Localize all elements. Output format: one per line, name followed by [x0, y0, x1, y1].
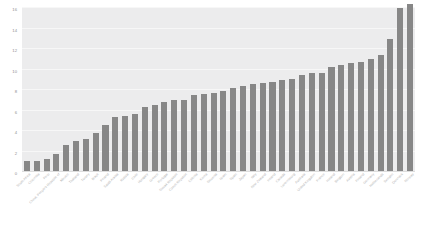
- bar: [102, 125, 108, 172]
- x-tick-label: Russia: [120, 173, 130, 183]
- y-axis: 0246810121416: [0, 8, 20, 172]
- bar: [358, 62, 364, 172]
- bar: [328, 67, 334, 172]
- x-tick-label: Estonia: [188, 173, 199, 184]
- bar: [53, 154, 59, 172]
- bar: [142, 107, 148, 172]
- plot-area: [22, 8, 415, 172]
- x-tick-label: Israel: [220, 173, 228, 181]
- bar: [161, 102, 167, 172]
- bar: [378, 55, 384, 172]
- x-axis: South AfricaColombiaPeruChina, People's …: [22, 173, 415, 237]
- x-tick-label: Turkey: [81, 173, 91, 183]
- bar: [397, 8, 403, 172]
- bars-layer: [22, 8, 415, 172]
- bar: [112, 117, 118, 172]
- bar: [211, 93, 217, 172]
- bar: [319, 73, 325, 172]
- bar: [181, 100, 187, 172]
- bar: [407, 4, 413, 172]
- bar: [299, 75, 305, 172]
- bar: [289, 79, 295, 172]
- x-tick-label: France: [316, 173, 326, 183]
- bar: [269, 82, 275, 172]
- x-tick-label: Thailand: [69, 173, 81, 185]
- bar: [122, 116, 128, 172]
- bar: [44, 159, 50, 172]
- bar: [201, 94, 207, 172]
- x-tick-label: Spain: [229, 173, 238, 182]
- x-tick-label: Austria: [346, 173, 356, 183]
- bar: [338, 65, 344, 172]
- bar: [368, 59, 374, 172]
- bar: [309, 73, 315, 172]
- bar: [73, 141, 79, 172]
- bar: [171, 100, 177, 172]
- bar: [387, 39, 393, 172]
- bar: [348, 63, 354, 172]
- bar: [93, 133, 99, 172]
- bar: [240, 86, 246, 172]
- bar-chart: 0246810121416 South AfricaColombiaPeruCh…: [0, 0, 428, 237]
- x-axis-baseline: [22, 171, 415, 172]
- bar: [63, 145, 69, 172]
- bar: [132, 114, 138, 172]
- bar: [152, 105, 158, 172]
- x-tick-label: Japan: [239, 173, 248, 182]
- bar: [191, 95, 197, 172]
- bar: [220, 91, 226, 172]
- bar: [230, 88, 236, 172]
- bar: [250, 84, 256, 172]
- x-tick-label: Hungary: [138, 173, 150, 185]
- bar: [260, 83, 266, 172]
- bar: [83, 139, 89, 172]
- x-tick-label: Norway: [404, 173, 415, 184]
- bar: [279, 80, 285, 172]
